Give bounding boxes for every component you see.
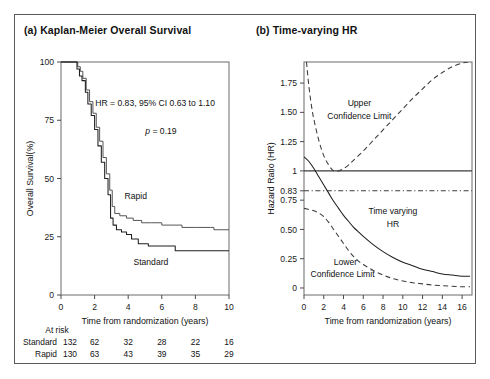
panel-b-y-tick-label: 0.50 <box>280 225 297 235</box>
panel-b-x-tick-label: 16 <box>457 302 467 312</box>
panel-b-y-axis-title: Hazard Ratio (HR) <box>266 142 276 214</box>
panel-b-y-tick-label: 0 <box>292 283 297 293</box>
panel-b-curve-time-varying-hr <box>304 157 470 277</box>
time-varying-hr-chart: 00.250.500.750.8311.251.501.750246810121… <box>0 0 490 379</box>
panel-b-label-lcl-line2: Confidence Limit <box>311 269 376 279</box>
panel-b-label-ucl-line2: Confidence Limit <box>327 111 392 121</box>
panel-b-x-axis-title: Time from randomization (years) <box>325 316 452 326</box>
panel-b-y-tick-label: 1.25 <box>280 137 297 147</box>
panel-b-y-tick-label: 0.75 <box>280 195 297 205</box>
panel-b-x-tick-label: 0 <box>302 302 307 312</box>
panel-b-x-tick-label: 10 <box>398 302 408 312</box>
panel-b-y-tick-label: 1 <box>292 166 297 176</box>
panel-b-label-tvhr-line2: HR <box>387 219 399 229</box>
panel-b-x-tick-label: 14 <box>438 302 448 312</box>
panel-b-plot-frame <box>304 62 472 295</box>
panel-b-y-tick-label: 0.25 <box>280 254 297 264</box>
panel-b-label-lcl-line1: Lower <box>334 257 358 267</box>
panel-b-y-tick-label: 1.75 <box>280 78 297 88</box>
panel-b-x-tick-label: 12 <box>418 302 428 312</box>
panel-b-x-tick-label: 2 <box>321 302 326 312</box>
figure-container: (a) Kaplan-Meier Overall Survival (b) Ti… <box>0 0 490 379</box>
panel-b-x-tick-label: 6 <box>361 302 366 312</box>
panel-b-x-tick-label: 4 <box>341 302 346 312</box>
panel-b-label-ucl-line1: Upper <box>348 98 372 108</box>
panel-b-y-tick-label: 1.50 <box>280 107 297 117</box>
panel-b-label-tvhr-line1: Time varying <box>369 206 418 216</box>
panel-b-y-tick-label: 0.83 <box>280 186 297 196</box>
panel-b-x-tick-label: 8 <box>381 302 386 312</box>
